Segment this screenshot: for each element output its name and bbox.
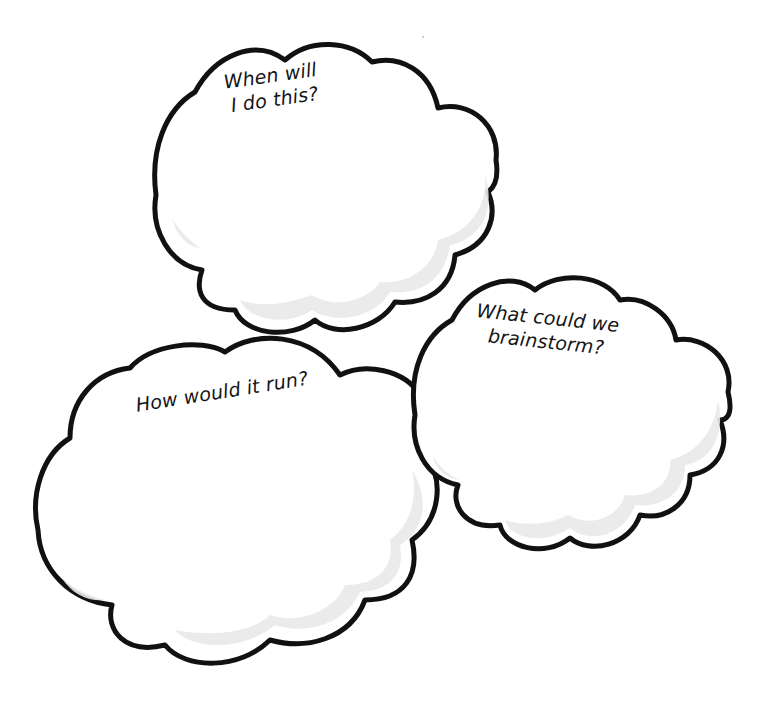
cloud-when-will-i-do-this: [155, 44, 497, 332]
paper-speck: [422, 36, 424, 38]
cloud-when-outline: [155, 44, 497, 332]
brainstorm-worksheet: When will I do this? What could we brain…: [0, 0, 758, 705]
cloud-graphics: [0, 0, 758, 705]
